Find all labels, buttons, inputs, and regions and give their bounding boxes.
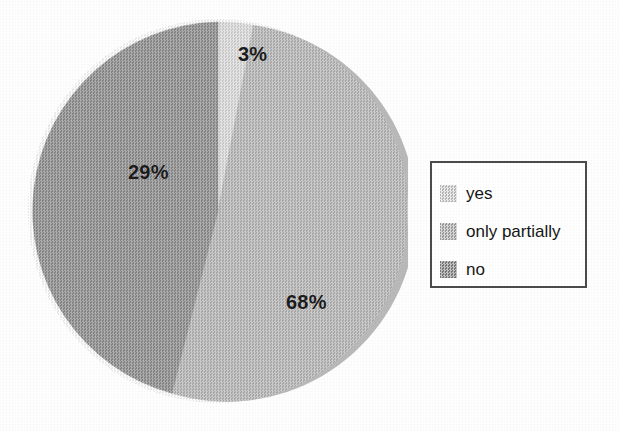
legend-item-only-partially[interactable]: only partially (440, 212, 585, 250)
legend-label-only-partially: only partially (466, 223, 561, 240)
pie-slice-label-only-partially: 68% (286, 291, 327, 314)
legend-item-yes[interactable]: yes (440, 174, 585, 212)
pie-slice-label-no: 29% (128, 161, 169, 184)
pie-slice-label-yes: 3% (238, 43, 267, 66)
legend-label-no: no (466, 261, 485, 278)
pie-chart: 3% 29% 68% (28, 19, 408, 403)
legend-swatch-yes (440, 185, 457, 202)
pie-chart-svg (28, 19, 408, 403)
legend-swatch-no (440, 261, 457, 278)
chart-legend: yes only partially no (430, 161, 587, 288)
legend-item-no[interactable]: no (440, 250, 585, 288)
pie-chart-figure: 3% 29% 68% yes only partially no (0, 0, 619, 431)
legend-swatch-only-partially (440, 223, 457, 240)
legend-label-yes: yes (466, 185, 492, 202)
